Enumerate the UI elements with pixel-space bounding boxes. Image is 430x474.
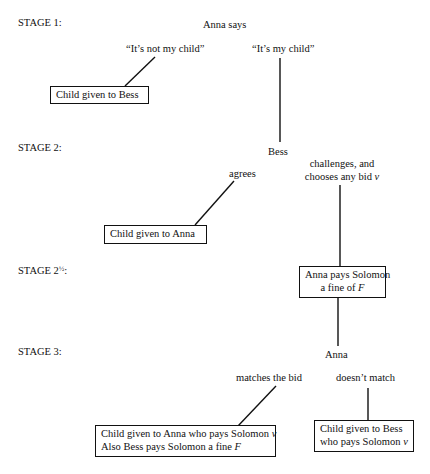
node-anna-says: Anna says: [203, 18, 246, 31]
fine-line-2: a fine of F: [305, 282, 380, 295]
stage-2-label: STAGE 2:: [18, 141, 62, 154]
stage-2-half-prefix: STAGE 2: [18, 265, 59, 276]
match-line-1: Child given to Anna who pays Solomon v: [101, 428, 270, 441]
edge-matches: [238, 386, 276, 426]
match-variable-f: F: [235, 441, 241, 452]
stage-2-half-label: STAGE 2½:: [18, 264, 67, 277]
match-text-2: Also Bess pays Solomon a fine: [101, 441, 235, 452]
stage-1-label: STAGE 1:: [18, 16, 62, 29]
branch-challenges: challenges, and chooses any bid v: [303, 157, 381, 183]
penalty-anna-pays-fine: Anna pays Solomon a fine of F: [299, 266, 386, 298]
stage-2-half-suffix: :: [64, 265, 67, 276]
branch-not-my-child: “It’s not my child”: [126, 42, 204, 55]
match-text-1: Child given to Anna who pays Solomon: [101, 428, 272, 439]
nomatch-text: who pays Solomon: [320, 436, 403, 447]
challenges-text: chooses any bid: [305, 171, 375, 182]
match-line-2: Also Bess pays Solomon a fine F: [101, 441, 270, 454]
nomatch-line-2: who pays Solomon v: [320, 436, 408, 449]
fine-text: a fine of: [320, 282, 358, 293]
node-bess: Bess: [268, 145, 288, 158]
edge-not-my-child: [125, 57, 155, 86]
outcome-anna-matches: Child given to Anna who pays Solomon v A…: [95, 425, 276, 457]
fine-line-1: Anna pays Solomon: [305, 269, 380, 282]
outcome-child-to-bess: Child given to Bess: [50, 86, 149, 104]
outcome-anna-doesnt-match: Child given to Bess who pays Solomon v: [314, 420, 414, 452]
tree-edges: [0, 0, 430, 474]
stage-2-half-fraction: ½: [59, 265, 64, 273]
challenges-line-1: challenges, and: [303, 157, 381, 170]
node-anna: Anna: [325, 348, 348, 361]
nomatch-line-1: Child given to Bess: [320, 423, 408, 436]
outcome-child-to-anna: Child given to Anna: [104, 225, 207, 244]
branch-matches-bid: matches the bid: [236, 371, 302, 384]
nomatch-variable-v: v: [403, 436, 408, 447]
challenges-line-2: chooses any bid v: [303, 170, 381, 183]
fine-variable: F: [358, 282, 364, 293]
match-variable-v: v: [272, 428, 277, 439]
stage-3-label: STAGE 3:: [18, 345, 62, 358]
branch-doesnt-match: doesn’t match: [336, 371, 395, 384]
branch-agrees: agrees: [229, 167, 256, 180]
edge-agrees: [195, 181, 234, 225]
branch-my-child: “It’s my child”: [252, 42, 314, 55]
bid-variable: v: [375, 171, 380, 182]
